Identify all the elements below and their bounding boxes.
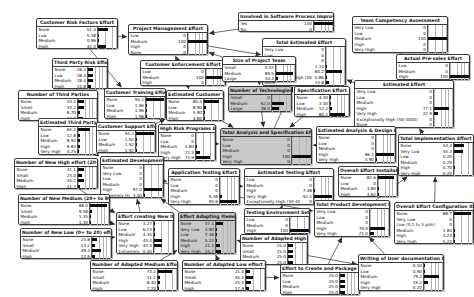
bn-node-num-new-medium[interactable]: Number of New Medium (20+ to 80) effort … xyxy=(18,194,110,225)
bn-state-label: Very High xyxy=(221,159,278,165)
bn-node-overall-config[interactable]: Overall Effort Configuration ItemsNone88… xyxy=(394,202,474,244)
bn-node-title: Estimated Effort xyxy=(355,81,453,89)
bn-probability-bar xyxy=(153,249,173,255)
bn-state-row: High100 xyxy=(245,228,309,234)
bn-node-title: Actual Pre-sales Effort xyxy=(397,55,469,63)
bn-node-total-analysis-spec[interactable]: Total Analysis and Specification Effort … xyxy=(220,128,312,165)
bn-node-involved-spi[interactable]: Involved in Software Process Improvement… xyxy=(238,12,334,32)
bn-node-estimated-customer[interactable]: Estimated Customer Effort (%)None80.4Low… xyxy=(166,90,224,121)
bn-node-num-new-low[interactable]: Number of New Low (0+ to 20) effort Item… xyxy=(20,228,112,259)
edge-num-adapted-high--writing-user-doc xyxy=(308,256,357,265)
bn-state-label: Very High xyxy=(353,47,414,53)
bn-state-label: High xyxy=(97,148,122,154)
bn-node-size-of-project-team[interactable]: Size of Project TeamSmall0.07Medium89.5L… xyxy=(222,56,296,82)
bn-node-testing-environment-setup[interactable]: Testing Environment SetupLow0Medium0High… xyxy=(244,208,310,234)
bn-state-label: No xyxy=(239,27,300,33)
bn-node-customer-support[interactable]: Customer Support EffortNone94.2Low1.92Me… xyxy=(96,122,156,153)
bn-node-project-management[interactable]: Project Management EffortLow0Medium100Hi… xyxy=(128,24,208,55)
bn-node-title: Estimated Development Effort xyxy=(101,157,163,165)
bn-state-row: High100 xyxy=(397,74,469,80)
bn-probability-bar xyxy=(145,114,165,120)
bn-node-title: Customer Enforcement Effort xyxy=(141,61,225,69)
bn-node-title: Writing of User documentation Effort xyxy=(359,255,443,263)
bn-node-num-adapted-low[interactable]: Number of Adapted Low effort (1 to 5) It… xyxy=(182,260,266,291)
bn-node-title: Involved in Software Process Improvement xyxy=(239,13,333,21)
bn-node-specification-effort[interactable]: Specification EffortNone4.30Low3.30Mediu… xyxy=(294,86,350,117)
edge-estimated-effort--total-estimated xyxy=(347,80,354,83)
bn-state-label: Very High xyxy=(399,171,440,177)
bn-state-value: 0 xyxy=(420,122,433,128)
bayesian-network-canvas: Customer Risk Factors EffortNone51.4Low5… xyxy=(0,0,474,297)
bn-state-label: High xyxy=(281,290,326,296)
bn-state-value: 80.2 xyxy=(316,112,329,118)
bn-node-effort-create-package[interactable]: Effort to Create and Package ProductNone… xyxy=(280,264,360,295)
bn-state-row: High7.20 xyxy=(91,286,177,292)
bn-state-label: Very High xyxy=(39,149,64,155)
bn-node-estimated-development[interactable]: Estimated Development EffortNone0Very Lo… xyxy=(100,156,164,198)
bn-probability-bar xyxy=(89,220,109,226)
bn-node-application-testing[interactable]: Application Testing EffortNone0Low0Mediu… xyxy=(168,168,240,205)
bn-node-title: Effort to Create and Package Product xyxy=(281,265,359,273)
bn-node-title: Size of Project Team xyxy=(223,57,295,65)
bn-node-title: Total Estimated Effort xyxy=(263,39,345,47)
bn-node-num-new-high[interactable]: Number of New High effort (20+) ItemsNon… xyxy=(14,158,98,189)
bn-state-value: 100 xyxy=(436,74,449,80)
bn-state-row: High11.7 xyxy=(15,184,97,190)
bn-state-label: Very High xyxy=(395,239,440,245)
bn-probability-bar xyxy=(77,149,97,155)
bn-node-customer-training[interactable]: Customer Training EffortNone94.1Low1.96M… xyxy=(104,88,166,119)
edge-customer-support--estimated-customer xyxy=(156,120,165,124)
bn-state-row: High13.9 xyxy=(21,254,111,260)
bn-node-writing-user-doc[interactable]: Writing of User documentation EffortNone… xyxy=(358,254,444,291)
edge-customer-enforcement--estimated-customer xyxy=(188,86,189,89)
bn-probability-bar xyxy=(271,106,291,112)
bn-probability-bar xyxy=(245,286,265,292)
bn-node-third-party-risk[interactable]: Third Party Risk EffortNone28.4Low28.4Me… xyxy=(52,58,108,89)
bn-node-number-of-third-parties[interactable]: Number of Third PartiesNone33.2Small33.2… xyxy=(18,90,98,121)
bn-node-effort-creating[interactable]: Effort creating New Items (%)None3.27Low… xyxy=(116,212,174,254)
bn-probability-bar xyxy=(325,80,345,86)
bn-node-estimated-third-party[interactable]: Estimated Third Party Effort (%)None65.2… xyxy=(38,118,98,155)
bn-node-num-adapted-medium[interactable]: Number of Adapted Medium Effort (5+ to 2… xyxy=(90,260,178,291)
edge-num-new-medium--effort-creating xyxy=(110,223,115,225)
bn-state-row: High1.96 xyxy=(105,114,165,120)
bn-state-value: 3.00 xyxy=(130,193,143,199)
bn-probability-bar xyxy=(77,184,97,190)
bn-state-label: High xyxy=(91,286,144,292)
edge-estimated-third-party--estimated-development xyxy=(97,155,99,157)
edge-size-of-project-team--project-management xyxy=(209,53,222,57)
bn-node-title: Team Competency Assessment xyxy=(353,17,447,25)
bn-state-value: 100 xyxy=(276,228,289,234)
bn-node-title: Application Testing Effort xyxy=(169,169,239,177)
bn-node-title: Project Management Effort xyxy=(129,25,207,33)
bn-node-effort-adapting[interactable]: Effort Adapting Items (%)None37.4Very Lo… xyxy=(178,212,236,254)
bn-state-label: High xyxy=(37,44,84,50)
bn-node-customer-risk-factors[interactable]: Customer Risk Factors EffortNone51.4Low5… xyxy=(36,18,118,49)
bn-probability-bar xyxy=(375,157,395,163)
bn-node-title: Number of Adapted Low effort (1 to 5) It… xyxy=(183,261,265,269)
bn-node-total-implementation[interactable]: Total Implementation Effort (%)None53.4V… xyxy=(398,134,474,176)
bn-node-team-competency[interactable]: Team Competency AssessmentVery Low0Low0M… xyxy=(352,16,448,53)
bn-node-number-of-technologies[interactable]: Number of TechnologiesSmall0Medium62.0La… xyxy=(228,86,292,112)
bn-probability-bar xyxy=(329,112,349,118)
edge-customer-risk-factors--project-management xyxy=(118,36,127,37)
bn-state-row: None0 xyxy=(129,50,207,56)
bn-node-estimated-analysis-design[interactable]: Estimated Analysis & Design Effort (posi… xyxy=(316,126,396,163)
bn-state-value: 13.9 xyxy=(78,254,91,260)
bn-state-row: High0 xyxy=(141,80,225,86)
bn-node-estimated-effort[interactable]: Estimated EffortVery Low0Low0Medium0High… xyxy=(354,80,454,128)
edge-project-management--total-estimated xyxy=(208,46,261,55)
bn-probability-bar xyxy=(275,76,295,82)
bn-state-row: Very High4.25 xyxy=(39,149,97,155)
bn-probability-bar xyxy=(195,155,215,161)
bn-node-actual-presales[interactable]: Actual Pre-sales EffortLow0Medium0High10… xyxy=(396,54,470,80)
bn-probability-bar xyxy=(97,44,117,50)
bn-state-label: Very High xyxy=(169,199,206,205)
bn-node-high-risk-programs[interactable]: High Risk Programs EffortNone0Low0Medium… xyxy=(158,124,216,161)
bn-node-title: Specification Effort xyxy=(295,87,349,95)
bn-probability-bar xyxy=(187,50,207,56)
bn-node-overall-installation[interactable]: Overall Effort Installation ItemsNone82.… xyxy=(338,166,398,197)
bn-node-customer-enforcement[interactable]: Customer Enforcement EffortLow0Medium100… xyxy=(140,60,226,86)
bn-node-total-product-development[interactable]: Total Product Development Effort (%)Very… xyxy=(314,200,390,237)
bn-node-title: Estimated Customer Effort (%) xyxy=(167,91,223,99)
